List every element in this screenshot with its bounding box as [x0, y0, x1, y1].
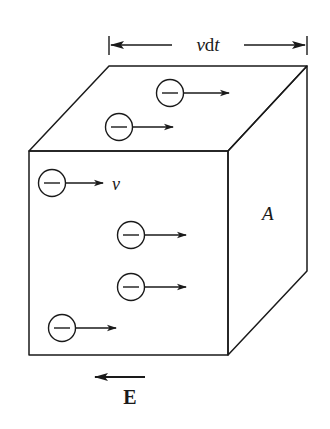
cube-top-face — [29, 66, 307, 151]
electron — [49, 315, 117, 342]
electron — [118, 274, 187, 301]
velocity-label: v — [112, 174, 120, 194]
electron — [106, 114, 174, 141]
electron — [118, 222, 187, 249]
field-label: E — [123, 386, 136, 408]
current-density-cube-diagram: vdt — [0, 0, 330, 429]
area-label: A — [260, 203, 274, 224]
electron — [39, 170, 104, 197]
width-label: vdt — [196, 34, 220, 55]
electron — [157, 80, 230, 107]
